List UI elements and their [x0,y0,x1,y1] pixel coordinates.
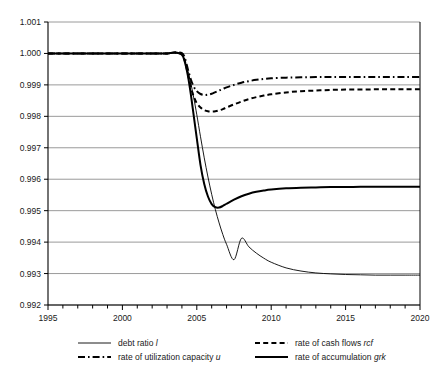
legend-label-grk: rate of accumulation grk [295,352,386,362]
series-line-grk [48,52,420,207]
y-axis-tick-label: 0.993 [20,269,42,279]
chart-legend: debt ratio lrate of cash flows rcfrate o… [78,338,386,362]
x-axis-tick-label: 2020 [411,313,430,323]
y-axis-tick-label: 1.001 [20,17,42,27]
series-line-u [48,52,420,95]
y-axis-tick-label: 0.996 [20,174,42,184]
x-axis-tick-label: 2005 [187,313,206,323]
x-axis-tick-label: 2015 [336,313,355,323]
y-axis-tick-label: 0.998 [20,111,42,121]
legend-label-l: debt ratio l [118,338,159,348]
y-axis-tick-label: 0.994 [20,237,42,247]
y-axis-tick-label: 1.000 [20,48,42,58]
x-axis-tick-label: 1995 [39,313,58,323]
y-axis-tick-label: 0.997 [20,143,42,153]
line-chart: 0.9920.9930.9940.9950.9960.9970.9980.999… [0,0,438,379]
y-axis-tick-label: 0.992 [20,300,42,310]
y-axis-tick-label: 0.995 [20,206,42,216]
y-axis: 0.9920.9930.9940.9950.9960.9970.9980.999… [20,17,48,310]
y-axis-tick-label: 0.999 [20,80,42,90]
grid-lines [48,22,420,305]
chart-container: 0.9920.9930.9940.9950.9960.9970.9980.999… [0,0,438,379]
x-axis-tick-label: 2000 [113,313,132,323]
x-axis: 199520002005201020152020 [39,305,430,323]
legend-label-rcf: rate of cash flows rcf [295,338,375,348]
x-axis-tick-label: 2010 [262,313,281,323]
legend-label-u: rate of utilization capacity u [118,352,221,362]
series-line-rcf [48,52,420,111]
